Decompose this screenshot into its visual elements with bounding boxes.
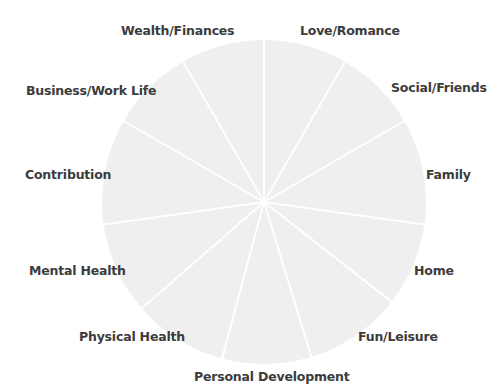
segment-label-physical-health: Physical Health (79, 330, 185, 344)
segment-label-love-romance: Love/Romance (300, 24, 400, 38)
segment-label-business-work-life: Business/Work Life (26, 84, 156, 98)
segment-label-fun-leisure: Fun/Leisure (358, 330, 438, 344)
segment-label-mental-health: Mental Health (29, 264, 126, 278)
segment-label-social-friends: Social/Friends (391, 81, 487, 95)
segment-label-personal-development: Personal Development (194, 370, 349, 384)
segment-label-contribution: Contribution (25, 168, 111, 182)
segment-label-family: Family (426, 168, 471, 182)
segment-label-wealth-finances: Wealth/Finances (121, 24, 234, 38)
segment-label-home: Home (414, 264, 454, 278)
